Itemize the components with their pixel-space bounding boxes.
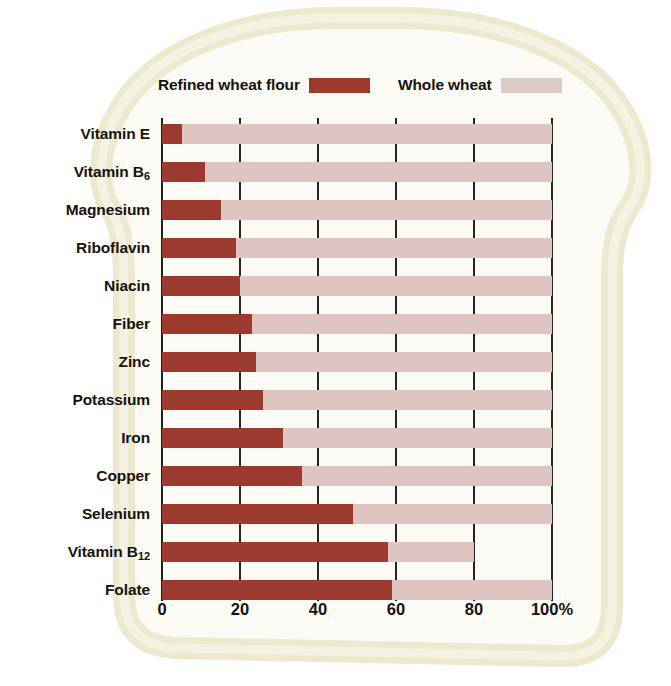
legend-swatch-whole-wheat [501, 78, 562, 93]
chart-legend: Refined wheat flour Whole wheat [158, 73, 562, 97]
category-label-potassium: Potassium [73, 391, 151, 409]
x-tick-label-60: 60 [387, 600, 405, 619]
x-tick-label-20: 20 [231, 600, 249, 619]
bar-refined-wheat-flour [162, 162, 205, 182]
bar-row: Folate [162, 580, 552, 600]
category-label-niacin: Niacin [104, 277, 150, 295]
x-tick-label-0: 0 [157, 600, 166, 619]
bar-row: Vitamin B6 [162, 162, 552, 182]
bar-refined-wheat-flour [162, 580, 392, 600]
legend-label-whole-wheat: Whole wheat [398, 76, 492, 94]
category-label-vitamin-e: Vitamin E [81, 125, 150, 143]
category-label-magnesium: Magnesium [66, 201, 150, 219]
bar-refined-wheat-flour [162, 466, 302, 486]
category-label-zinc: Zinc [119, 353, 150, 371]
bar-row: Zinc [162, 352, 552, 372]
category-label-riboflavin: Riboflavin [76, 239, 150, 257]
bar-row: Selenium [162, 504, 552, 524]
bar-row: Iron [162, 428, 552, 448]
category-label-iron: Iron [121, 429, 150, 447]
category-label-fiber: Fiber [113, 315, 150, 333]
bar-row: Magnesium [162, 200, 552, 220]
category-label-vitamin-b12: Vitamin B12 [68, 543, 150, 561]
category-label-folate: Folate [105, 581, 150, 599]
bar-refined-wheat-flour [162, 428, 283, 448]
bar-refined-wheat-flour [162, 200, 221, 220]
bar-row: Niacin [162, 276, 552, 296]
legend-swatch-refined-wheat-flour [309, 78, 370, 93]
plot-area: 020406080100% Vitamin EVitamin B6Magnesi… [162, 118, 552, 594]
category-label-copper: Copper [96, 467, 150, 485]
bar-row: Copper [162, 466, 552, 486]
bar-row: Fiber [162, 314, 552, 334]
x-tick-label-40: 40 [309, 600, 327, 619]
legend-item-whole-wheat: Whole wheat [398, 76, 562, 94]
bar-refined-wheat-flour [162, 504, 353, 524]
bar-refined-wheat-flour [162, 124, 182, 144]
bar-whole-wheat [162, 200, 552, 220]
bar-refined-wheat-flour [162, 238, 236, 258]
nutrient-retention-figure: Refined wheat flour Whole wheat 02040608… [0, 0, 671, 686]
bar-row: Potassium [162, 390, 552, 410]
bar-whole-wheat [162, 162, 552, 182]
bar-refined-wheat-flour [162, 390, 263, 410]
category-label-selenium: Selenium [82, 505, 150, 523]
bar-row: Vitamin B12 [162, 542, 552, 562]
bar-whole-wheat [162, 124, 552, 144]
bar-refined-wheat-flour [162, 352, 256, 372]
x-tick-label-80: 80 [465, 600, 483, 619]
category-label-vitamin-b6: Vitamin B6 [74, 163, 150, 181]
bar-refined-wheat-flour [162, 276, 240, 296]
legend-label-refined-wheat-flour: Refined wheat flour [158, 76, 300, 94]
bar-row: Riboflavin [162, 238, 552, 258]
legend-item-refined-wheat-flour: Refined wheat flour [158, 76, 370, 94]
bar-refined-wheat-flour [162, 314, 252, 334]
x-tick-label-100: 100% [531, 600, 573, 619]
bar-row: Vitamin E [162, 124, 552, 144]
bar-refined-wheat-flour [162, 542, 388, 562]
